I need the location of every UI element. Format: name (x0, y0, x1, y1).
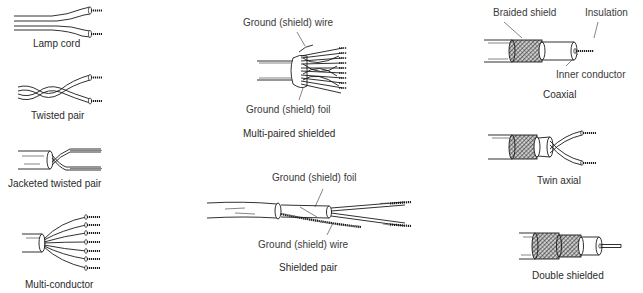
coaxial-illustration (482, 20, 642, 65)
caption-lamp-cord: Lamp cord (33, 38, 80, 49)
callout-ground-shield-wire-bottom: Ground (shield) wire (258, 239, 348, 250)
shielded-pair-illustration (205, 183, 415, 235)
multi-conductor-illustration (20, 212, 105, 272)
twisted-pair-illustration (16, 70, 106, 106)
lamp-cord-illustration (12, 5, 107, 37)
caption-shielded-pair: Shielded pair (279, 262, 337, 273)
double-shielded-illustration (517, 225, 637, 265)
caption-double-shielded: Double shielded (532, 270, 604, 281)
caption-twisted-pair: Twisted pair (31, 110, 84, 121)
twin-axial-illustration (486, 127, 626, 167)
callout-braided-shield: Braided shield (493, 7, 556, 18)
jacketed-twisted-pair-illustration (16, 145, 106, 175)
callout-inner-conductor: Inner conductor (556, 69, 626, 80)
caption-coaxial: Coaxial (543, 89, 576, 100)
caption-jacketed-twisted-pair: Jacketed twisted pair (8, 178, 101, 189)
callout-ground-shield-foil-bottom: Ground (shield) foil (272, 172, 356, 183)
callout-insulation: Insulation (585, 7, 628, 18)
callout-ground-shield-foil-top: Ground (shield) foil (246, 104, 330, 115)
multi-paired-shielded-illustration (255, 28, 350, 103)
callout-ground-shield-wire-top: Ground (shield) wire (243, 17, 333, 28)
caption-twin-axial: Twin axial (537, 175, 581, 186)
caption-multi-conductor: Multi-conductor (25, 279, 93, 290)
caption-multi-paired-shielded: Multi-paired shielded (243, 128, 335, 139)
